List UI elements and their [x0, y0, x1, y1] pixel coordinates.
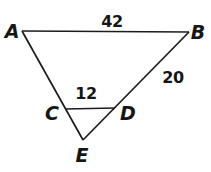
vertex-label-a: A: [3, 20, 20, 42]
segment-cd: [65, 108, 115, 109]
geometry-diagram: A B C D E 42 20 12: [0, 0, 211, 172]
segment-ab: [22, 31, 189, 32]
vertex-label-d: D: [120, 102, 136, 124]
measure-label-bd: 20: [162, 68, 184, 87]
vertex-label-c: C: [45, 102, 59, 124]
vertex-label-b: B: [191, 21, 205, 43]
measure-label-ab: 42: [101, 12, 122, 31]
vertex-label-e: E: [76, 144, 89, 166]
measure-label-cd: 12: [75, 84, 96, 103]
triangle-figure: A B C D E 42 20 12: [0, 0, 211, 172]
